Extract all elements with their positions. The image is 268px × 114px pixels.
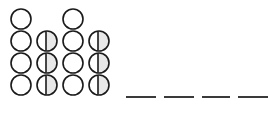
counter-cell-r2-c3[interactable] (62, 30, 84, 52)
answer-blank-4[interactable] (238, 96, 268, 98)
counter-cell-r3-c1[interactable] (10, 52, 32, 74)
counter-cell-r3-c4[interactable] (88, 52, 110, 74)
counter-cell-r3-c2[interactable] (36, 52, 58, 74)
counter-cell-r4-c2[interactable] (36, 74, 58, 96)
counter-cell-r4-c3[interactable] (62, 74, 84, 96)
answer-blank-1[interactable] (126, 96, 156, 98)
split-circle-icon[interactable] (36, 52, 58, 74)
split-circle-icon[interactable] (36, 74, 58, 96)
counter-cell-r2-c1[interactable] (10, 30, 32, 52)
answer-blank-3[interactable] (202, 96, 230, 98)
counter-cell-r2-c4[interactable] (88, 30, 110, 52)
answer-blank-row (126, 92, 268, 104)
split-circle-icon[interactable] (88, 30, 110, 52)
empty-circle-icon[interactable] (62, 74, 84, 96)
empty-circle-icon[interactable] (10, 30, 32, 52)
split-circle-icon[interactable] (88, 52, 110, 74)
empty-circle-icon[interactable] (10, 52, 32, 74)
empty-circle-icon[interactable] (62, 52, 84, 74)
counter-cell-r1-c4 (88, 8, 110, 30)
counter-cell-r4-c1[interactable] (10, 74, 32, 96)
counter-cell-r3-c3[interactable] (62, 52, 84, 74)
counter-cell-r4-c4[interactable] (88, 74, 110, 96)
worksheet-canvas (0, 0, 268, 114)
empty-circle-icon[interactable] (62, 30, 84, 52)
counter-cell-r1-c2 (36, 8, 58, 30)
split-circle-icon[interactable] (36, 30, 58, 52)
empty-circle-icon[interactable] (10, 74, 32, 96)
counter-cell-r2-c2[interactable] (36, 30, 58, 52)
counter-cell-r1-c3[interactable] (62, 8, 84, 30)
empty-circle-icon[interactable] (62, 8, 84, 30)
counter-cell-r1-c1[interactable] (10, 8, 32, 30)
counter-grid (0, 0, 120, 114)
answer-blank-2[interactable] (164, 96, 194, 98)
split-circle-icon[interactable] (88, 74, 110, 96)
empty-circle-icon[interactable] (10, 8, 32, 30)
